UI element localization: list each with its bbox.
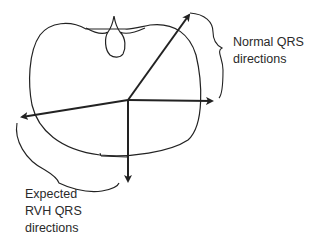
spine-notch — [86, 16, 145, 57]
chest-outline — [30, 23, 201, 155]
normal-qrs-label: Normal QRS directions — [233, 34, 304, 68]
rvh-label-line1: Expected — [25, 186, 82, 203]
rvh-qrs-label: Expected RVH QRS directions — [25, 186, 82, 237]
rvh-brace — [17, 123, 119, 192]
arrow-left — [22, 100, 128, 117]
rvh-label-line3: directions — [25, 220, 82, 237]
rvh-label-line2: RVH QRS — [25, 203, 82, 220]
normal-label-line1: Normal QRS — [233, 34, 304, 51]
normal-brace — [190, 13, 223, 98]
arrow-right — [128, 100, 212, 101]
normal-label-line2: directions — [233, 51, 304, 68]
